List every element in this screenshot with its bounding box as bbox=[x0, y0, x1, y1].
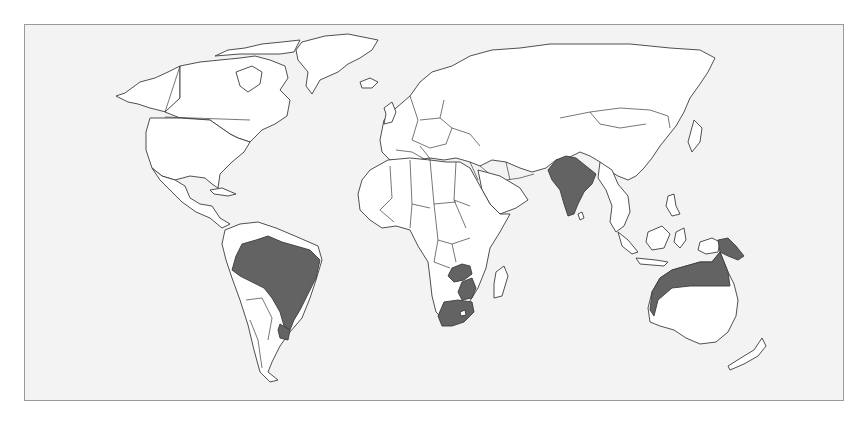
region-java bbox=[636, 258, 668, 266]
region-madagascar bbox=[494, 266, 508, 298]
region-canada-islands bbox=[215, 40, 300, 56]
region-west-papua bbox=[698, 238, 720, 254]
region-india bbox=[548, 156, 596, 216]
region-sumatra bbox=[618, 232, 638, 254]
region-alaska bbox=[116, 66, 180, 112]
south-america bbox=[222, 222, 322, 382]
region-cuba bbox=[210, 188, 236, 196]
region-sulawesi bbox=[674, 228, 686, 248]
region-sri-lanka bbox=[578, 212, 584, 220]
region-philippines bbox=[666, 194, 680, 216]
region-japan bbox=[688, 120, 702, 152]
north-america bbox=[116, 34, 378, 228]
region-south-africa bbox=[438, 300, 474, 326]
region-borneo bbox=[646, 226, 670, 250]
world-map bbox=[0, 0, 865, 421]
region-iceland bbox=[360, 78, 378, 88]
oceania bbox=[618, 194, 766, 370]
region-new-zealand bbox=[728, 338, 766, 370]
